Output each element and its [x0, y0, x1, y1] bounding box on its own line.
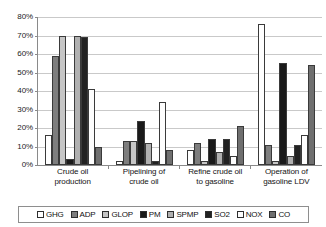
- legend-swatch-icon: [102, 211, 109, 218]
- bar-group: [38, 17, 109, 165]
- legend-label: NOX: [246, 210, 263, 219]
- bar-group: [109, 17, 180, 165]
- legend-item-pm[interactable]: PM: [140, 210, 161, 219]
- legend-swatch-icon: [269, 211, 276, 218]
- bar-adp-2: [194, 143, 201, 165]
- y-axis-tick-label: 20%: [17, 124, 33, 132]
- bar-spmp-0: [74, 36, 81, 166]
- bar-glop-0: [59, 36, 66, 166]
- bar-glop-1: [130, 141, 137, 165]
- y-axis-tick-label: 30%: [17, 106, 33, 114]
- x-axis-category-labels: Crude oilproductionPipelining ofcrude oi…: [37, 167, 322, 197]
- category-label-line: production: [38, 177, 107, 187]
- legend-item-adp[interactable]: ADP: [71, 210, 96, 219]
- bar-co-1: [166, 150, 173, 165]
- category-label-line: gasoline LDV: [252, 177, 321, 187]
- bar-group: [180, 17, 251, 165]
- bar-pm-3: [279, 63, 286, 165]
- category-label-line: Pipelining of: [109, 167, 178, 177]
- category-label-line: to gasoline: [181, 177, 250, 187]
- bar-groups: [38, 17, 322, 165]
- bar-glop-3: [272, 161, 279, 165]
- bar-spmp-2: [216, 152, 223, 165]
- bar-spmp-1: [145, 143, 152, 165]
- bar-adp-3: [265, 145, 272, 165]
- bar-adp-0: [52, 56, 59, 165]
- y-axis-tick-label: 50%: [17, 69, 33, 77]
- legend-item-so2[interactable]: SO2: [205, 210, 229, 219]
- legend-item-spmp[interactable]: SPMP: [167, 210, 198, 219]
- bar-spmp-3: [287, 156, 294, 165]
- bar-co-3: [308, 65, 315, 165]
- chart-legend: GHGADPGLOPPMSPMPSO2NOXCO: [18, 206, 309, 223]
- y-axis-tick-label: 40%: [17, 87, 33, 95]
- legend-label: CO: [278, 210, 290, 219]
- category-label-line: Refine crude oil: [181, 167, 250, 177]
- bar-ghg-0: [45, 135, 52, 165]
- bar-co-0: [95, 147, 102, 166]
- bar-chart: 80%70%60%50%40%30%20%10%0% Crude oilprod…: [0, 0, 326, 227]
- legend-swatch-icon: [205, 211, 212, 218]
- bar-ghg-3: [258, 24, 265, 165]
- bar-so2-0: [81, 37, 88, 165]
- legend-label: PM: [149, 210, 161, 219]
- legend-label: GLOP: [111, 210, 132, 219]
- legend-label: SPMP: [176, 210, 198, 219]
- category-label: Refine crude oilto gasoline: [180, 167, 251, 197]
- legend-swatch-icon: [71, 211, 78, 218]
- y-axis-labels: 80%70%60%50%40%30%20%10%0%: [0, 0, 36, 182]
- category-label: Crude oilproduction: [37, 167, 108, 197]
- legend-label: SO2: [214, 210, 229, 219]
- bar-nox-3: [301, 135, 308, 165]
- category-label-line: crude oil: [109, 177, 178, 187]
- legend-item-ghg[interactable]: GHG: [37, 210, 64, 219]
- y-axis-tick-label: 80%: [17, 13, 33, 21]
- bar-adp-1: [123, 141, 130, 165]
- bar-nox-1: [159, 102, 166, 165]
- legend-swatch-icon: [140, 211, 147, 218]
- y-axis-tick-label: 70%: [17, 32, 33, 40]
- legend-item-glop[interactable]: GLOP: [102, 210, 132, 219]
- legend-item-nox[interactable]: NOX: [237, 210, 263, 219]
- y-axis-tick-label: 60%: [17, 50, 33, 58]
- bar-group: [251, 17, 322, 165]
- category-label-line: Operation of: [252, 167, 321, 177]
- bar-so2-2: [223, 139, 230, 165]
- legend-item-co[interactable]: CO: [269, 210, 290, 219]
- bar-ghg-1: [116, 161, 123, 165]
- bar-nox-2: [230, 156, 237, 165]
- legend-label: ADP: [80, 210, 96, 219]
- bar-so2-1: [152, 161, 159, 165]
- category-label-line: Crude oil: [38, 167, 107, 177]
- bar-nox-0: [88, 89, 95, 165]
- y-axis-tick-label: 10%: [17, 143, 33, 151]
- y-axis-tick: [35, 165, 38, 166]
- category-label: Operation ofgasoline LDV: [251, 167, 322, 197]
- bar-pm-2: [208, 139, 215, 165]
- legend-swatch-icon: [37, 211, 44, 218]
- bar-so2-3: [294, 145, 301, 165]
- plot-area: [37, 17, 322, 166]
- plot-area-wrapper: 80%70%60%50%40%30%20%10%0% Crude oilprod…: [0, 0, 326, 182]
- bar-pm-0: [66, 159, 73, 165]
- legend-swatch-icon: [237, 211, 244, 218]
- legend-swatch-icon: [167, 211, 174, 218]
- legend-label: GHG: [46, 210, 64, 219]
- y-axis-tick-label: 0%: [22, 161, 33, 169]
- bar-co-2: [237, 126, 244, 165]
- bar-ghg-2: [187, 150, 194, 165]
- category-label: Pipelining ofcrude oil: [108, 167, 179, 197]
- bar-pm-1: [137, 121, 144, 165]
- bar-glop-2: [201, 161, 208, 165]
